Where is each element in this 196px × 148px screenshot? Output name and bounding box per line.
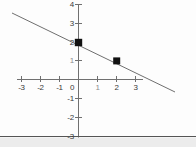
x-tick-label-neg3: -3 bbox=[18, 84, 25, 92]
page-edge-band bbox=[0, 138, 196, 148]
y-tick-label-neg1: -1 bbox=[67, 95, 74, 103]
x-tick-label-1: 1 bbox=[95, 84, 99, 92]
plot-canvas bbox=[0, 0, 196, 147]
x-tick-label-neg1: -1 bbox=[56, 84, 63, 92]
y-tick-label-4: 4 bbox=[70, 1, 74, 9]
x-tick-label-3: 3 bbox=[133, 84, 137, 92]
x-tick-label-neg2: -2 bbox=[37, 84, 44, 92]
y-tick-label-2: 2 bbox=[70, 39, 74, 47]
plotted-line bbox=[12, 13, 175, 92]
y-tick-label-neg3: -3 bbox=[67, 133, 74, 141]
y-tick-label-3: 3 bbox=[70, 20, 74, 28]
y-tick-label-1: 1 bbox=[70, 57, 74, 65]
data-point-marker bbox=[75, 39, 82, 46]
data-point-marker bbox=[113, 57, 120, 64]
y-tick-label-neg2: -2 bbox=[67, 114, 74, 122]
x-tick-label-origin: 0 bbox=[70, 84, 74, 92]
coordinate-plane-figure: -3 -2 -1 0 1 2 3 4 3 2 1 -1 -2 -3 bbox=[0, 0, 196, 147]
x-tick-label-2: 2 bbox=[114, 84, 118, 92]
